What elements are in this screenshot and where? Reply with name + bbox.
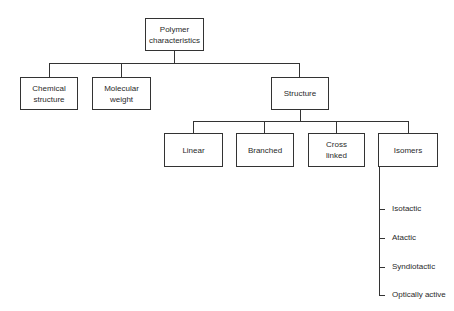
- connector: [193, 121, 409, 122]
- connector-tick: [379, 295, 385, 296]
- node-polymer-characteristics: Polymer characteristics: [145, 18, 204, 51]
- connector: [408, 121, 409, 133]
- node-label: Chemical: [32, 83, 65, 94]
- connector: [264, 121, 265, 133]
- node-structure: Structure: [271, 77, 329, 110]
- node-label: Linear: [182, 145, 204, 156]
- node-label: Molecular: [104, 83, 139, 94]
- node-isomers: Isomers: [378, 133, 438, 167]
- connector-tick: [379, 238, 385, 239]
- node-branched: Branched: [236, 133, 294, 167]
- node-molecular-weight: Molecular weight: [92, 77, 151, 110]
- node-label: weight: [104, 94, 139, 105]
- node-label: Polymer: [149, 24, 200, 35]
- leaf-syndiotactic: Syndiotactic: [392, 262, 435, 272]
- connector: [193, 121, 194, 133]
- connector: [121, 63, 122, 77]
- connector: [299, 63, 300, 77]
- node-label: Isomers: [394, 145, 422, 156]
- connector: [379, 167, 380, 296]
- node-cross-linked: Cross linked: [308, 133, 365, 167]
- leaf-atactic: Atactic: [392, 233, 416, 243]
- node-label: Structure: [284, 88, 316, 99]
- connector: [174, 51, 175, 63]
- node-label: structure: [32, 94, 65, 105]
- node-label: linked: [326, 150, 347, 161]
- connector: [49, 63, 300, 64]
- connector: [49, 63, 50, 77]
- connector-tick: [379, 209, 385, 210]
- node-label: Branched: [248, 145, 282, 156]
- connector-tick: [379, 267, 385, 268]
- node-chemical-structure: Chemical structure: [20, 77, 78, 110]
- connector: [336, 121, 337, 133]
- node-label: characteristics: [149, 35, 200, 46]
- node-label: Cross: [326, 139, 347, 150]
- node-linear: Linear: [164, 133, 223, 167]
- leaf-isotactic: Isotactic: [392, 204, 421, 214]
- leaf-optically-active: Optically active: [392, 290, 446, 300]
- connector: [300, 110, 301, 121]
